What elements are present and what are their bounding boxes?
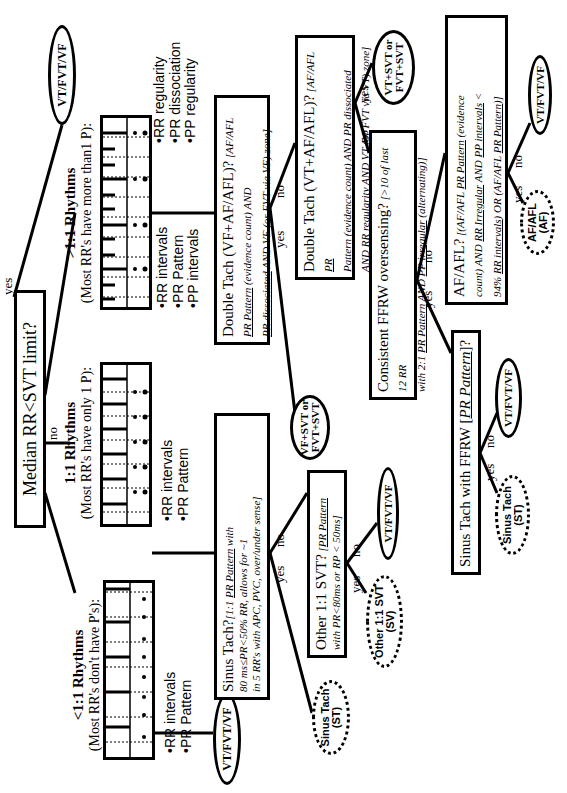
sinus-tach-ffrw-decision: Sinus Tach with FFRW [PR Pattern]? (451, 330, 481, 575)
double-tach-vf-yes-label: yes (272, 231, 288, 248)
af-afl-decision: AF/AFL? [(AF/AFL PR Pattern (evidence co… (445, 15, 508, 305)
vt-fvt-vf-terminal-less: VT/FVT/VF (213, 693, 241, 785)
sinus-tach-no-label: no (272, 534, 288, 547)
greater-rhythms-header: >1:1 Rhythms (Most RR's have more than1 … (62, 103, 94, 323)
double-tach-vt-decision: Double Tach (VT+AF/AFL)? [AF/AFL PR Patt… (295, 35, 355, 280)
double-tach-vt-yes-label: yes (356, 86, 372, 103)
less-bullets: •RR intervals •PR Pattern (163, 672, 194, 753)
edge-label-no: no (45, 427, 61, 440)
equal-rhythm-strip (100, 362, 152, 527)
vt-fvt-vf-terminal-ffrw: VT/FVT/VF (495, 358, 522, 438)
edge-label-yes: yes (0, 278, 16, 295)
greater-bullets-2: •RR regularity •PR dissociation •PP regu… (152, 42, 199, 143)
vf-svt-terminal: VF+SVT orFVT+SVT (290, 395, 330, 460)
ecg-strip-equal (103, 365, 149, 524)
sinus-tach-decision: Sinus Tach?[1:1 PR Pattern with 80 ms≤PR… (214, 413, 270, 700)
afafl-no-label: no (510, 155, 526, 168)
ffrw-oversensing-decision: Consistent FFRW oversensing? [>10 of las… (369, 130, 417, 400)
sinus-ffrw-no-label: no (482, 435, 498, 448)
less-rhythms-header: <1:1 Rhythms (Most RR's don't have P's): (70, 575, 102, 775)
median-rr-label: Median RR<SVT limit? (20, 322, 41, 496)
ffrw-yes-label: yes (420, 291, 436, 308)
sinus-tach-st-terminal: Sinus Tach(ST) (312, 680, 350, 755)
vt-fvt-vf-terminal-other: VT/FVT/VF (377, 467, 399, 560)
sinus-ffrw-yes-label: yes (482, 464, 498, 481)
sinus-tach-yes-label: yes (272, 566, 288, 583)
ecg-strip-greater (103, 118, 149, 307)
ecg-strip-less (106, 583, 152, 757)
equal-bullets: •RR intervals •PR Pattern (160, 440, 191, 521)
greater-bullets: •RR intervals •PR Pattern •PP intervals (155, 227, 202, 308)
double-tach-vf-no-label: no (272, 185, 288, 198)
other-svt-yes-label: yes (348, 576, 364, 593)
flowchart-canvas: Median RR<SVT limit? yes no VT/FVT/VF >1… (0, 0, 567, 793)
sinus-tach-st-terminal-ffrw: Sinus Tach(ST) (495, 475, 530, 555)
median-rr-decision: Median RR<SVT limit? (14, 290, 46, 528)
equal-rhythms-header: 1:1 Rhythms (Most RR's have only 1 P): (62, 348, 94, 538)
double-tach-vf-decision: Double Tach (VF+AF/AFL)? [AF/AFL PR Patt… (214, 95, 270, 345)
other-svt-decision: Other 1:1 SVT? [PR Pattern with PR<80ms … (307, 470, 347, 658)
other-svt-sv-terminal: Other 1:1 SVT(SV) (366, 575, 403, 668)
af-terminal: AF/AFL(AF) (520, 190, 555, 255)
ffrw-no-label: no (420, 250, 436, 263)
other-svt-no-label: no (348, 544, 364, 557)
vt-fvt-vf-terminal-af: VT/FVT/VF (528, 55, 552, 135)
greater-rhythm-strip (100, 115, 152, 310)
vt-svt-terminal: VT+SVT orFVT+SVT (372, 30, 415, 105)
less-rhythm-strip (103, 580, 155, 760)
